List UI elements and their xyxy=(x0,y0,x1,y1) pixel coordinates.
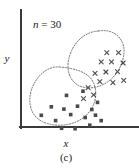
sample-size-annotation: n = 30 xyxy=(33,18,62,30)
data-point-cross xyxy=(121,61,125,65)
data-point-square xyxy=(65,94,69,98)
cluster-outline-crosses xyxy=(68,31,124,88)
data-point-cross xyxy=(98,80,102,84)
data-point-square xyxy=(69,113,73,117)
plot-canvas: y x n = 30 (c) xyxy=(0,0,139,168)
series-crosses xyxy=(82,51,126,101)
data-point-square xyxy=(99,119,103,123)
data-point-cross xyxy=(104,70,108,74)
figure-caption: (c) xyxy=(60,151,73,164)
data-point-square xyxy=(81,89,85,93)
data-point-square xyxy=(50,105,54,109)
data-point-cross xyxy=(122,78,126,82)
data-point-square xyxy=(76,104,80,108)
data-point-square xyxy=(73,127,77,131)
y-axis-label: y xyxy=(4,52,10,64)
sample-size-value: 30 xyxy=(50,18,62,30)
x-axis-label: x xyxy=(63,137,69,149)
data-point-square xyxy=(96,101,100,105)
data-point-square xyxy=(54,119,58,123)
data-point-cross xyxy=(82,97,86,101)
data-point-cross xyxy=(105,51,109,55)
data-point-square xyxy=(60,127,64,131)
scatter-figure: y x n = 30 (c) xyxy=(0,0,139,168)
sample-size-equals: = xyxy=(39,18,51,30)
data-point-cross xyxy=(99,60,103,64)
data-point-square xyxy=(62,107,66,111)
data-point-cross xyxy=(116,70,120,74)
data-point-square xyxy=(88,123,92,127)
data-point-square xyxy=(40,114,44,118)
data-point-cross xyxy=(117,51,121,55)
data-point-square xyxy=(83,116,87,120)
data-point-cross xyxy=(111,81,115,85)
data-point-cross xyxy=(92,93,96,97)
data-point-cross xyxy=(93,71,97,75)
data-point-cross xyxy=(110,60,114,64)
data-point-square xyxy=(90,108,94,112)
data-point-square xyxy=(94,113,98,117)
